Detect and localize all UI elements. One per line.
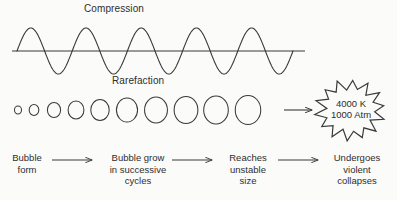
bubble	[68, 101, 84, 119]
bubble	[14, 106, 21, 114]
compression-label: Compression	[84, 3, 144, 15]
bubble	[116, 98, 137, 122]
step-label-bubble-grow: Bubble grow in successive cycles	[98, 152, 178, 187]
cavitation-diagram: Compression Rarefaction 4000 K 1000 Atm …	[0, 0, 397, 200]
bubble	[174, 97, 198, 124]
step-label-bubble-form: Bubble form	[4, 152, 50, 175]
bubble	[204, 96, 229, 124]
bubble	[47, 103, 60, 118]
step-label-unstable-size: Reaches unstable size	[218, 152, 278, 187]
bubble-row	[14, 96, 260, 125]
bubble	[29, 105, 39, 116]
burst-pressure-label: 1000 Atm	[316, 109, 386, 120]
bubble	[91, 100, 109, 121]
sound-wave-group	[12, 28, 305, 74]
rarefaction-label: Rarefaction	[112, 75, 164, 87]
bubble	[145, 97, 168, 123]
step-label-violent-collapse: Undergoes violent collapses	[324, 152, 390, 187]
burst-temperature-label: 4000 K	[316, 98, 386, 109]
bubble	[235, 96, 261, 125]
